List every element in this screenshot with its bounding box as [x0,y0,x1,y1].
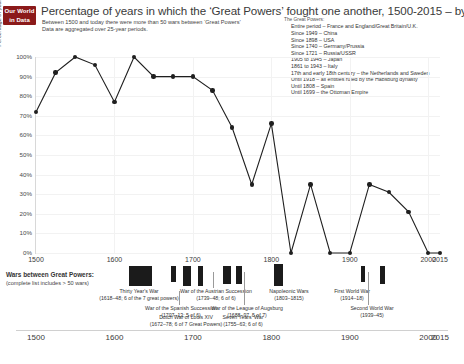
war-label: Second World War [302,305,442,311]
war-bar [223,266,230,284]
legend-title: The Great Powers: [284,17,464,22]
x-axis-tick: 1600 [94,256,134,263]
war-bar [129,266,153,286]
y-axis-label: Percentage of years in which the great p… [0,0,2,60]
data-point[interactable] [328,251,332,255]
war-bar [171,266,176,282]
legend-item: Since 1898 – USA [291,37,464,44]
war-dates: (1755–63; 6 of 6) [168,321,318,327]
war-label: Seven Years' War [173,314,313,320]
y-axis-tick: 0% [0,249,32,256]
y-axis-tick: 30% [0,190,32,197]
war-label: War of the League of Augsburg [177,305,317,311]
y-axis-tick: 20% [0,210,32,217]
y-axis-tick: 40% [0,171,32,178]
data-point[interactable] [53,70,57,74]
owid-logo[interactable]: Our World in Data [3,6,36,25]
x-axis-tick: 1800 [251,256,291,263]
wars-panel-title: Wars between Great Powers: [6,271,94,278]
leader-line [213,272,214,288]
bottom-axis-tick: 1500 [16,333,56,342]
legend-item: Since 1721 – Russia/USSR [291,50,464,57]
bottom-axis-line [16,330,448,331]
gridline [36,253,440,254]
data-point[interactable] [191,74,195,78]
legend-item: Since 1740 – Germany/Prussia [291,43,464,50]
y-axis-tick: 60% [0,131,32,138]
data-point[interactable] [308,182,312,186]
x-axis-tick: 2015 [420,256,460,263]
wars-panel-subtitle: (complete list includes > 50 wars) [6,280,89,286]
legend-item: Entire period – France and England/Great… [291,23,464,30]
series-line [36,57,440,253]
subtitle-line-2: Data are aggregated over 25-year periods… [42,26,148,32]
war-bar [274,264,283,286]
data-point[interactable] [230,125,234,129]
page-title: Percentage of years in which the ‘Great … [41,4,461,17]
data-point[interactable] [93,63,97,67]
war-dates: (1939–45) [297,312,447,318]
y-axis-tick: 50% [0,151,32,158]
war-bar [183,266,190,286]
leader-line [368,272,369,305]
war-bar [236,266,242,284]
plot-area [36,57,440,253]
war-bar [380,266,385,284]
war-bar [198,266,203,286]
data-point[interactable] [426,251,430,255]
data-point[interactable] [438,251,442,255]
war-bar [361,266,365,282]
bottom-axis-tick: 1800 [251,333,291,342]
x-axis-tick: 1500 [16,256,56,263]
legend-item: Since 1949 – China [291,30,464,37]
chart-page: Our World in Data Percentage of years in… [0,0,464,364]
data-point[interactable] [406,210,410,214]
logo-line-2: in Data [3,16,36,25]
bottom-axis-tick: 1600 [94,333,134,342]
bottom-axis-tick: 1700 [173,333,213,342]
data-point[interactable] [289,251,293,255]
y-axis-tick: 10% [0,229,32,236]
logo-line-1: Our World [3,7,36,16]
data-point[interactable] [250,182,254,186]
y-axis-tick: 80% [0,92,32,99]
y-axis-tick: 70% [0,112,32,119]
war-dates: (1914–18) [277,295,427,301]
data-point[interactable] [112,100,116,104]
x-axis-tick: 1900 [330,256,370,263]
subtitle-line-1: Between 1500 and today there were more t… [42,19,241,25]
data-point[interactable] [210,88,214,92]
data-point[interactable] [367,182,371,186]
y-axis-tick: 100% [0,53,32,60]
bottom-axis-tick: 2015 [420,333,460,342]
data-point[interactable] [269,121,273,125]
y-axis-tick: 90% [0,73,32,80]
war-label: First World War [282,288,422,294]
bottom-axis-tick: 1900 [330,333,370,342]
data-point[interactable] [348,251,352,255]
data-point[interactable] [151,74,155,78]
x-axis-tick: 1700 [173,256,213,263]
